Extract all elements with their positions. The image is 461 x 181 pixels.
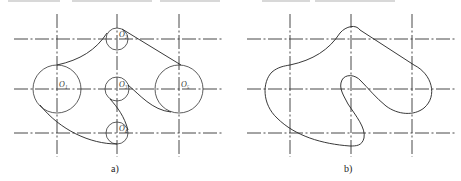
caption-b: b) [344,163,352,175]
label-o5: O₅ [181,80,190,89]
caption-a: a) [111,163,119,175]
centerlines-b [247,14,455,157]
label-o3: O₃ [119,80,128,89]
label-o1: O₁ [59,80,68,89]
centerlines-a [14,14,222,157]
panel-a: O₂ O₁ O₃ O₅ O₄ a) [14,14,222,175]
cut-off-text-line [8,0,395,2]
label-o2: O₂ [119,30,128,39]
label-o4: O₄ [119,124,128,133]
technical-drawing: O₂ O₁ O₃ O₅ O₄ a) b) [0,0,461,181]
panel-b: b) [247,14,455,175]
